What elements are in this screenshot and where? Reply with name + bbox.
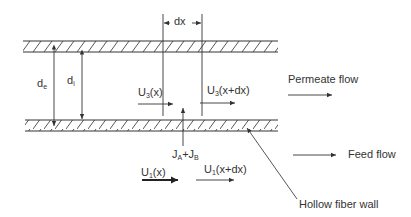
hollow-fiber-wall-leader — [247, 128, 297, 199]
feed-flow-label: Feed flow — [348, 148, 396, 160]
dx-label: dx — [174, 15, 186, 27]
dx-element-boundaries — [163, 14, 202, 116]
inner-diameter-label: di — [67, 74, 75, 90]
outer-diameter-label: de — [37, 77, 47, 93]
bottom-fiber-wall — [25, 120, 278, 131]
top-fiber-wall — [23, 41, 278, 52]
u3-x-label: U3(x) — [138, 86, 163, 102]
u1-x-label: U1(x) — [141, 166, 166, 182]
flux-label: JA+JB — [172, 148, 199, 164]
permeate-flow-label: Permeate flow — [288, 73, 358, 85]
hollow-fiber-wall-label: Hollow fiber wall — [299, 198, 378, 210]
u3-xdx-label: U3(x+dx) — [207, 84, 250, 100]
diagram-canvas — [0, 0, 411, 217]
u1-xdx-label: U1(x+dx) — [204, 163, 247, 179]
